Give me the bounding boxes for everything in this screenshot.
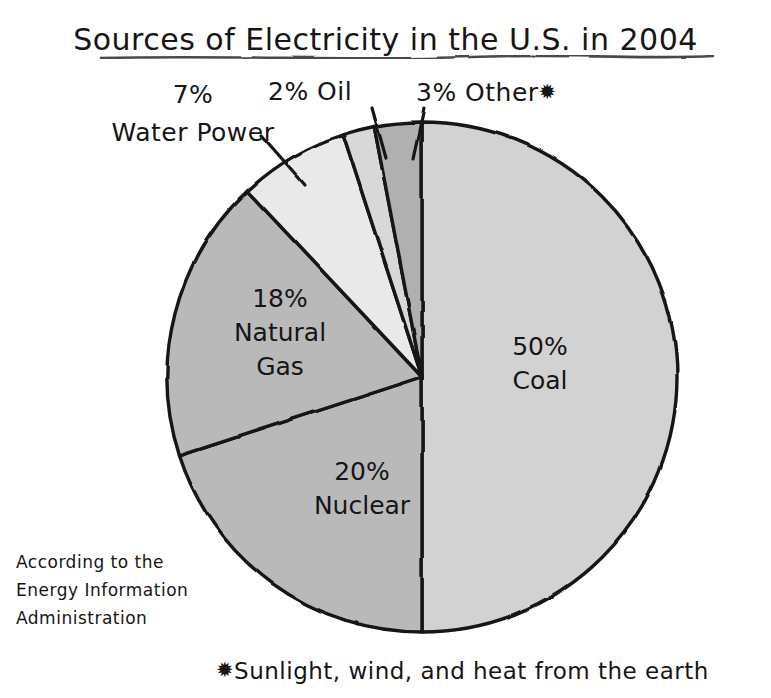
- callout-other: 3% Other✹: [416, 76, 557, 109]
- slice-label-coal-percent: 50%: [512, 332, 568, 361]
- callout-water-power-percent: 7%: [173, 80, 214, 109]
- callout-other-text: 3% Other: [416, 78, 539, 107]
- callout-oil: 2% Oil: [268, 76, 352, 108]
- footnote-text: Sunlight, wind, and heat from the earth: [234, 658, 709, 684]
- slice-label-nuclear: 20% Nuclear: [272, 455, 452, 523]
- slice-label-gas-name-1: Natural: [234, 318, 326, 347]
- source-line-1: According to the: [16, 552, 164, 572]
- callout-water-power-name: Water Power: [112, 118, 275, 147]
- slice-label-nuclear-percent: 20%: [334, 457, 390, 486]
- source-line-3: Administration: [16, 608, 147, 628]
- slice-label-gas-name-2: Gas: [256, 352, 304, 381]
- slice-label-coal: 50% Coal: [460, 330, 620, 398]
- slice-label-coal-name: Coal: [512, 366, 567, 395]
- page-title: Sources of Electricity in the U.S. in 20…: [0, 23, 771, 57]
- footnote: ✹Sunlight, wind, and heat from the earth: [216, 655, 709, 686]
- slice-label-gas-percent: 18%: [252, 284, 308, 313]
- slice-label-nuclear-name: Nuclear: [314, 491, 410, 520]
- footnote-marker-icon: ✹: [539, 80, 557, 104]
- slice-label-natural-gas: 18% Natural Gas: [200, 282, 360, 384]
- source-attribution: According to the Energy Information Admi…: [16, 548, 188, 632]
- source-line-2: Energy Information: [16, 580, 188, 600]
- chart-canvas: Sources of Electricity in the U.S. in 20…: [0, 0, 771, 698]
- footnote-star-icon: ✹: [216, 658, 234, 682]
